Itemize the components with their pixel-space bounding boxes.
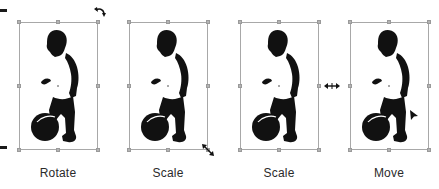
panel-scale-corner <box>129 22 208 150</box>
rotation-center-point <box>278 85 280 87</box>
panel-rotate <box>19 22 98 150</box>
arrow-pointer-cursor-icon <box>409 109 419 121</box>
resize-handle-bottom-middle[interactable] <box>277 148 281 152</box>
resize-handle-middle-left[interactable] <box>238 84 242 88</box>
resize-handle-top-right[interactable] <box>206 20 210 24</box>
diagonal-resize-cursor-icon <box>201 143 215 157</box>
panel-label-scale-corner: Scale <box>118 166 218 180</box>
resize-handle-top-left[interactable] <box>127 20 131 24</box>
resize-handle-bottom-left[interactable] <box>17 148 21 152</box>
resize-handle-bottom-right[interactable] <box>427 148 431 152</box>
resize-handle-top-right[interactable] <box>96 20 100 24</box>
rotation-center-point <box>388 85 390 87</box>
panel-scale-side <box>240 22 319 150</box>
resize-handle-top-middle[interactable] <box>166 20 170 24</box>
rotation-center-point <box>57 85 59 87</box>
resize-handle-top-middle[interactable] <box>387 20 391 24</box>
resize-handle-bottom-middle[interactable] <box>56 148 60 152</box>
rotation-center-point <box>167 85 169 87</box>
resize-handle-top-right[interactable] <box>427 20 431 24</box>
resize-handle-bottom-right[interactable] <box>317 148 321 152</box>
resize-handle-top-middle[interactable] <box>56 20 60 24</box>
resize-handle-bottom-right[interactable] <box>96 148 100 152</box>
resize-handle-bottom-middle[interactable] <box>166 148 170 152</box>
resize-handle-bottom-middle[interactable] <box>387 148 391 152</box>
resize-handle-middle-left[interactable] <box>127 84 131 88</box>
edge-mark-top <box>0 9 7 12</box>
rotate-cursor-icon <box>93 6 107 20</box>
panel-label-rotate: Rotate <box>8 166 108 180</box>
resize-handle-bottom-left[interactable] <box>348 148 352 152</box>
edge-mark-bottom <box>0 146 7 149</box>
resize-handle-bottom-left[interactable] <box>238 148 242 152</box>
resize-handle-top-left[interactable] <box>238 20 242 24</box>
resize-handle-middle-left[interactable] <box>348 84 352 88</box>
resize-handle-middle-left[interactable] <box>17 84 21 88</box>
resize-handle-top-left[interactable] <box>17 20 21 24</box>
resize-handle-bottom-left[interactable] <box>127 148 131 152</box>
resize-handle-top-middle[interactable] <box>277 20 281 24</box>
panel-label-move: Move <box>339 166 439 180</box>
resize-handle-middle-right[interactable] <box>317 84 321 88</box>
panel-move <box>350 22 429 150</box>
horizontal-resize-cursor-icon <box>324 81 340 91</box>
resize-handle-top-left[interactable] <box>348 20 352 24</box>
panel-label-scale-side: Scale <box>229 166 329 180</box>
resize-handle-middle-right[interactable] <box>206 84 210 88</box>
resize-handle-top-right[interactable] <box>317 20 321 24</box>
resize-handle-middle-right[interactable] <box>96 84 100 88</box>
resize-handle-middle-right[interactable] <box>427 84 431 88</box>
